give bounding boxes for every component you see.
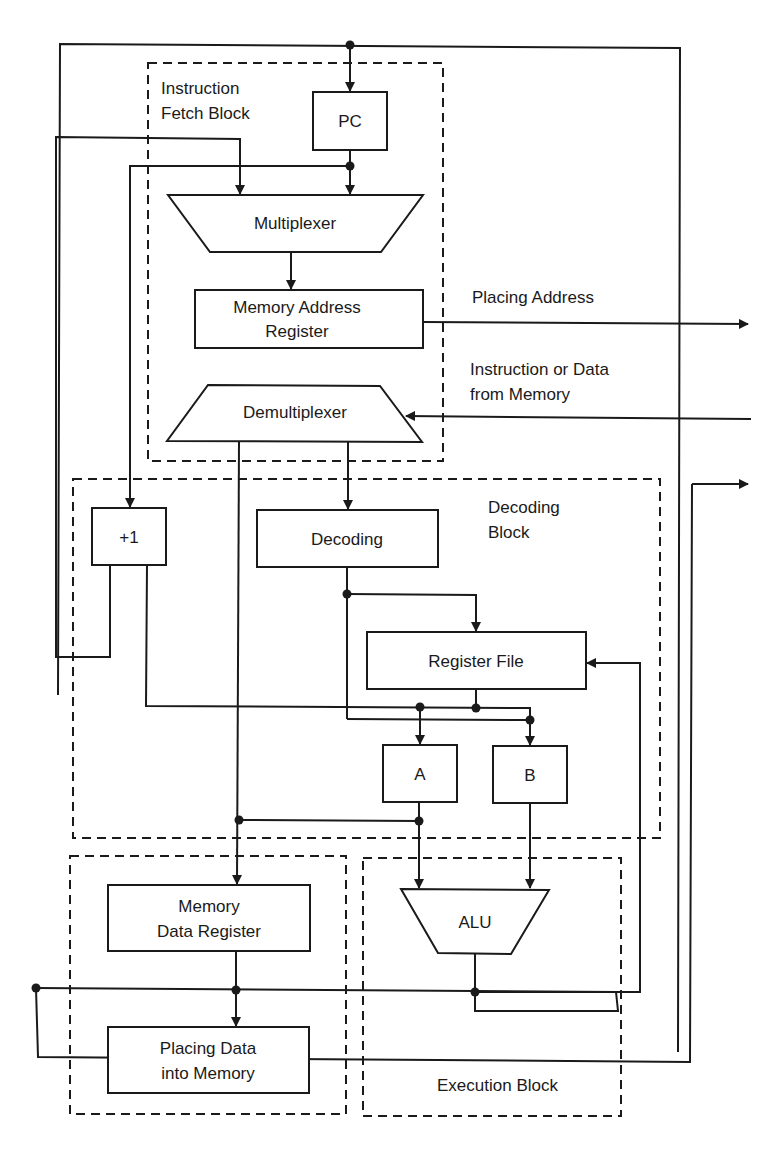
register-a: A bbox=[383, 745, 457, 802]
alu-label: ALU bbox=[458, 913, 491, 932]
cpu-datapath-diagram: Instruction Fetch Block Decoding Block E… bbox=[0, 0, 784, 1176]
multiplexer-label: Multiplexer bbox=[254, 214, 337, 233]
decoding-label: Decoding bbox=[311, 530, 383, 549]
junction-dot bbox=[235, 816, 244, 825]
junction-dot bbox=[526, 716, 535, 725]
junction-dot bbox=[232, 986, 241, 995]
junction-dot bbox=[416, 703, 425, 712]
register-b: B bbox=[493, 746, 567, 803]
increment-unit: +1 bbox=[92, 508, 166, 565]
memory-address-register: Memory Address Register bbox=[195, 290, 423, 348]
store-label-line2: into Memory bbox=[161, 1064, 255, 1083]
decoding-to-b-wire bbox=[347, 719, 530, 720]
pc-register: PC bbox=[313, 92, 387, 150]
decoding-block-label-line2: Block bbox=[488, 523, 530, 542]
demultiplexer-label: Demultiplexer bbox=[243, 403, 347, 422]
mdr-label-line1: Memory bbox=[178, 897, 240, 916]
memory-data-register: Memory Data Register bbox=[108, 885, 310, 951]
decoding-block-label-line1: Decoding bbox=[488, 498, 560, 517]
register-file-label: Register File bbox=[428, 652, 523, 671]
junction-dot bbox=[32, 984, 41, 993]
a-to-alu-wire bbox=[237, 820, 419, 888]
increment-label: +1 bbox=[119, 528, 138, 547]
register-b-label: B bbox=[524, 766, 535, 785]
placing-data-into-memory: Placing Data into Memory bbox=[108, 1027, 309, 1093]
junction-dot bbox=[471, 988, 480, 997]
demultiplexer: Demultiplexer bbox=[167, 385, 422, 442]
outer-left-loop-wire bbox=[36, 484, 692, 1062]
register-a-label: A bbox=[414, 765, 426, 784]
address-out-wire bbox=[423, 322, 748, 324]
memory-in-label-line2: from Memory bbox=[470, 385, 571, 404]
alu: ALU bbox=[401, 889, 549, 954]
execution-block-label: Execution Block bbox=[437, 1076, 558, 1095]
decoding-unit: Decoding bbox=[257, 510, 438, 567]
junction-dot bbox=[346, 41, 355, 50]
register-file: Register File bbox=[367, 632, 586, 689]
store-label-line1: Placing Data bbox=[160, 1039, 257, 1058]
alu-out-bus-wire bbox=[36, 988, 616, 992]
decoding-to-regfile-wire bbox=[347, 594, 476, 631]
placing-address-label: Placing Address bbox=[472, 288, 594, 307]
junction-dot bbox=[472, 704, 481, 713]
pc-label: PC bbox=[338, 112, 362, 131]
memory-in-label-line1: Instruction or Data bbox=[470, 360, 609, 379]
fetch-block-label-line1: Instruction bbox=[161, 79, 239, 98]
multiplexer: Multiplexer bbox=[168, 195, 423, 252]
mdr-label-line2: Data Register bbox=[157, 922, 261, 941]
memory-in-wire bbox=[406, 416, 751, 419]
alu-out-right-wire bbox=[475, 992, 618, 1011]
mar-label-line1: Memory Address bbox=[233, 298, 361, 317]
mar-label-line2: Register bbox=[265, 322, 329, 341]
fetch-block-label-line2: Fetch Block bbox=[161, 104, 250, 123]
